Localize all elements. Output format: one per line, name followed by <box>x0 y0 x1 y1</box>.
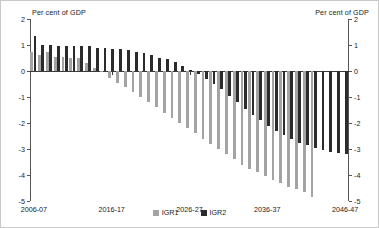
y-tick-label-left: 1 <box>11 42 25 49</box>
bar-igr2-2035-36 <box>259 71 262 120</box>
y-tick-left <box>27 123 30 124</box>
x-tick <box>112 71 113 75</box>
bar-igr1-2028-29 <box>202 71 205 139</box>
bar-igr2-2026-27 <box>189 70 192 71</box>
y-tick-right <box>349 175 352 176</box>
legend-item-igr2: IGR2 <box>201 208 227 217</box>
bar-igr2-2027-28 <box>197 71 200 74</box>
bar-igr2-2045-46 <box>337 71 340 153</box>
y-tick-label-left: -3 <box>11 146 25 153</box>
y-tick-label-right: -2 <box>354 120 368 127</box>
y-tick-label-right: -1 <box>354 94 368 101</box>
bar-igr2-2007-08 <box>41 45 44 71</box>
legend-swatch-icon <box>201 210 207 216</box>
bar-igr2-2034-35 <box>252 71 255 115</box>
bar-igr2-2020-21 <box>143 53 146 71</box>
bar-igr2-2018-19 <box>127 50 130 71</box>
bar-igr1-2018-19 <box>124 71 127 87</box>
bar-igr2-2021-22 <box>150 55 153 71</box>
y-tick-left <box>27 97 30 98</box>
bar-igr2-2032-33 <box>236 71 239 102</box>
bar-igr2-2036-37 <box>267 71 270 126</box>
y-tick-right <box>349 45 352 46</box>
bar-igr2-2040-41 <box>298 71 301 143</box>
y-axis-right <box>348 19 349 201</box>
y-tick-label-left: -1 <box>11 94 25 101</box>
bar-igr1-2024-25 <box>171 71 174 118</box>
bar-igr1-2027-28 <box>194 71 197 133</box>
bar-igr2-2006-07 <box>34 36 37 71</box>
bar-igr2-2025-26 <box>181 66 184 71</box>
bar-igr1-2021-22 <box>147 71 150 102</box>
bar-igr2-2008-09 <box>49 45 52 71</box>
bar-igr1-2022-23 <box>155 71 158 107</box>
bar-igr2-2037-38 <box>275 71 278 131</box>
legend-item-igr1: IGR1 <box>153 208 179 217</box>
legend-label: IGR1 <box>162 208 179 217</box>
legend-swatch-icon <box>153 210 159 216</box>
y-tick-label-left: -2 <box>11 120 25 127</box>
bar-igr2-2024-25 <box>174 62 177 71</box>
bar-igr2-2043-44 <box>322 71 325 150</box>
y-tick-left <box>27 201 30 202</box>
y-tick-right <box>349 19 352 20</box>
bar-igr2-2038-39 <box>283 71 286 135</box>
bar-igr2-2019-20 <box>135 52 138 72</box>
bar-igr2-2041-42 <box>306 71 309 145</box>
y-tick-label-right: 2 <box>354 16 368 23</box>
y-axis-left <box>30 19 31 201</box>
y-tick-label-right: 0 <box>354 68 368 75</box>
plot-area <box>30 19 349 201</box>
bar-igr2-2042-43 <box>314 71 317 148</box>
bar-igr2-2028-29 <box>205 71 208 79</box>
bar-igr2-2044-45 <box>329 71 332 152</box>
y-tick-left <box>27 175 30 176</box>
y-tick-label-left: 2 <box>11 16 25 23</box>
y-tick-label-right: -5 <box>354 198 368 205</box>
y-tick-left <box>27 19 30 20</box>
y-tick-right <box>349 97 352 98</box>
y-tick-right <box>349 201 352 202</box>
bar-igr2-2010-11 <box>65 46 68 71</box>
bar-igr1-2016-17 <box>108 71 111 78</box>
y-tick-label-right: 1 <box>354 42 368 49</box>
bar-igr2-2015-16 <box>104 48 107 71</box>
chart-container: Per cent of GDP Per cent of GDP 221100-1… <box>0 0 379 228</box>
bar-igr1-2019-20 <box>132 71 135 92</box>
legend-label: IGR2 <box>210 208 227 217</box>
bar-igr2-2033-34 <box>244 71 247 109</box>
y-tick-left <box>27 45 30 46</box>
y-tick-label-right: -3 <box>354 146 368 153</box>
bar-igr2-2009-10 <box>57 46 60 71</box>
y-tick-right <box>349 71 352 72</box>
y-tick-left <box>27 149 30 150</box>
bar-igr1-2026-27 <box>186 71 189 128</box>
y-tick-right <box>349 123 352 124</box>
bar-igr2-2046-47 <box>345 71 348 154</box>
bar-igr2-2029-30 <box>213 71 216 84</box>
bar-igr2-2013-14 <box>88 46 91 71</box>
bar-igr2-2017-18 <box>119 49 122 71</box>
bar-igr1-2020-21 <box>139 71 142 97</box>
bar-igr2-2031-32 <box>228 71 231 96</box>
bar-igr2-2014-15 <box>96 48 99 71</box>
bar-igr1-2023-24 <box>163 71 166 113</box>
bar-igr1-2017-18 <box>116 71 119 83</box>
bar-igr2-2022-23 <box>158 58 161 71</box>
bar-igr2-2039-40 <box>290 71 293 139</box>
y-tick-label-left: -5 <box>11 198 25 205</box>
y-tick-label-right: -4 <box>354 172 368 179</box>
bar-igr1-2015-16 <box>100 71 103 72</box>
plot-inner <box>30 19 349 201</box>
bar-igr2-2011-12 <box>73 46 76 71</box>
bar-igr2-2023-24 <box>166 59 169 71</box>
bar-igr1-2025-26 <box>178 71 181 123</box>
bar-igr2-2016-17 <box>111 49 114 71</box>
y-tick-right <box>349 149 352 150</box>
x-tick <box>190 71 191 75</box>
left-axis-unit-label: Per cent of GDP <box>32 8 86 17</box>
bar-igr2-2030-31 <box>220 71 223 89</box>
y-tick-left <box>27 71 30 72</box>
bar-igr2-2012-13 <box>80 46 83 71</box>
y-tick-label-left: 0 <box>11 68 25 75</box>
